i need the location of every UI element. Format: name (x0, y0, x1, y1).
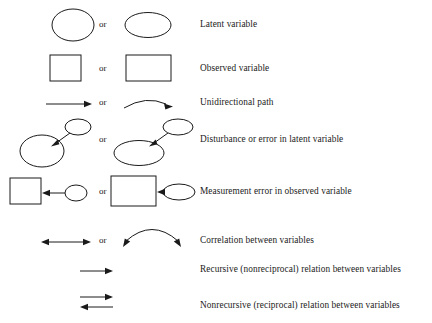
correlation-arrow-head-right-icon (83, 239, 91, 245)
path-diagram-legend: or Latent variable or Observed variable … (0, 0, 432, 323)
legend-label-correlation: Correlation between variables (200, 236, 314, 245)
or-label-observed-variable: or (99, 63, 107, 73)
square-shape-icon (50, 55, 81, 81)
legend-label-disturbance-latent: Disturbance or error in latent variable (200, 135, 343, 144)
disturbance-small-ellipse-alt-icon (163, 119, 193, 135)
legend-label-observed-variable: Observed variable (200, 64, 269, 73)
ellipse-shape-icon (125, 13, 171, 38)
correlation-arrow-head-left-icon (41, 239, 49, 245)
circle-shape-icon (52, 9, 94, 41)
symbol-group-nonrecursive-relation (0, 288, 200, 318)
curved-arrow-head-icon (164, 104, 173, 110)
or-label-disturbance-latent: or (99, 134, 107, 144)
correlation-arc-line-icon (126, 230, 178, 242)
or-label-latent-variable: or (99, 19, 107, 29)
straight-arrow-head-icon (84, 101, 92, 107)
error-small-ellipse-icon (163, 184, 195, 200)
curved-arrow-line-icon (124, 100, 166, 108)
rectangle-shape-icon (126, 55, 171, 81)
measurement-error-arrow-head-icon (42, 190, 50, 196)
or-label-measurement-error: or (99, 186, 107, 196)
recursive-arrow-head-icon (105, 268, 113, 274)
observed-rectangle-shape-icon (111, 176, 156, 206)
legend-label-nonrecursive-relation: Nonrecursive (reciprocal) relation betwe… (200, 301, 400, 310)
or-label-unidirectional-path: or (99, 97, 107, 107)
correlation-arc-head-right-icon (174, 239, 181, 247)
legend-label-latent-variable: Latent variable (200, 20, 257, 29)
disturbance-small-ellipse-icon (65, 119, 91, 135)
symbol-group-recursive-relation (0, 258, 200, 284)
measurement-error-arrow-head-alt-icon (157, 189, 165, 195)
correlation-arc-head-left-icon (123, 239, 130, 247)
legend-label-unidirectional-path: Unidirectional path (200, 98, 274, 107)
legend-label-measurement-error: Measurement error in observed variable (200, 187, 352, 196)
error-small-circle-icon (65, 185, 87, 201)
or-label-correlation: or (99, 235, 107, 245)
nonrecursive-arrow-head-forward-icon (105, 294, 113, 300)
observed-square-shape-icon (10, 178, 41, 204)
legend-label-recursive-relation: Recursive (nonreciprocal) relation betwe… (200, 265, 401, 274)
nonrecursive-arrow-head-backward-icon (80, 304, 88, 310)
symbol-group-disturbance-latent (0, 118, 200, 170)
